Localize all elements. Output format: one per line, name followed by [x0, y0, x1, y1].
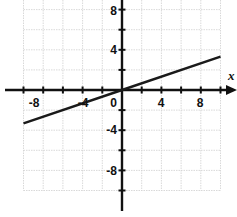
coordinate-plane: -8 -4 4 8 0 8 4 -4 -8 x — [0, 0, 237, 217]
y-tick-label: 4 — [110, 43, 117, 57]
y-tick-label: -4 — [106, 123, 117, 137]
x-tick-label: -4 — [78, 96, 89, 110]
x-axis-arrow-icon — [226, 85, 237, 95]
origin-label: 0 — [110, 96, 117, 110]
x-tick-label: 4 — [158, 96, 165, 110]
x-axis-name: x — [227, 68, 235, 83]
y-tick-label: 8 — [110, 4, 117, 18]
x-tick-label: 8 — [197, 96, 204, 110]
x-tick-label: -8 — [29, 96, 40, 110]
y-tick-label: -8 — [106, 164, 117, 178]
